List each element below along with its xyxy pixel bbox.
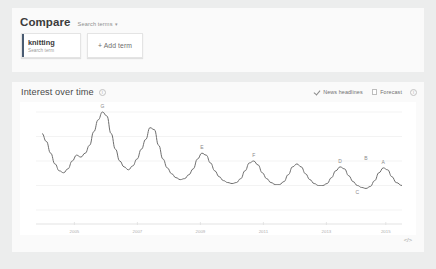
svg-text:2015: 2015 <box>381 229 391 234</box>
svg-text:2011: 2011 <box>259 229 269 234</box>
chart-controls: News headlines Forecast i <box>314 89 417 96</box>
compare-header: Compare Search terms▾ <box>12 8 424 28</box>
term-name: knitting <box>28 38 80 47</box>
term-kind: Search term <box>28 47 80 54</box>
svg-text:2007: 2007 <box>133 229 143 234</box>
embed-code-icon[interactable]: </> <box>404 236 412 243</box>
chart-area[interactable]: 200520072009201120132015GEFDCBA <box>20 102 416 235</box>
page-title: Compare <box>20 16 71 28</box>
term-card-content: knitting Search term <box>22 34 80 54</box>
embed-row: </> <box>12 235 424 243</box>
term-accent-bar <box>22 34 24 57</box>
svg-text:F: F <box>252 152 255 158</box>
compare-card: Compare Search terms▾ knitting Search te… <box>12 8 424 72</box>
search-terms-label: Search terms <box>78 21 113 27</box>
forecast-info-icon[interactable]: i <box>410 89 417 96</box>
interest-header: Interest over time i News headlines Fore… <box>12 82 424 102</box>
svg-text:D: D <box>338 158 342 164</box>
svg-text:A: A <box>382 159 386 165</box>
chevron-down-icon: ▾ <box>115 21 118 27</box>
interest-over-time-card: Interest over time i News headlines Fore… <box>12 82 424 252</box>
section-title: Interest over time <box>21 87 94 97</box>
svg-text:G: G <box>101 103 105 109</box>
svg-text:2009: 2009 <box>196 229 206 234</box>
svg-text:E: E <box>200 144 204 150</box>
svg-text:2013: 2013 <box>322 229 332 234</box>
forecast-label: Forecast <box>380 89 402 95</box>
add-term-button[interactable]: + Add term <box>87 33 143 58</box>
news-headlines-toggle[interactable]: News headlines <box>314 89 362 95</box>
checkbox-icon <box>372 89 378 95</box>
search-terms-dropdown[interactable]: Search terms▾ <box>78 21 118 27</box>
term-card-knitting[interactable]: knitting Search term <box>21 33 81 58</box>
term-row: knitting Search term + Add term <box>12 28 424 58</box>
svg-text:C: C <box>356 189 360 195</box>
svg-text:B: B <box>364 155 368 161</box>
trends-page: Compare Search terms▾ knitting Search te… <box>0 0 436 269</box>
interest-line-chart: 200520072009201120132015GEFDCBA <box>20 102 416 235</box>
info-icon[interactable]: i <box>99 89 106 96</box>
add-term-label: + Add term <box>98 42 132 49</box>
news-headlines-label: News headlines <box>323 89 362 95</box>
checkmark-icon <box>314 89 320 95</box>
svg-text:2005: 2005 <box>70 229 80 234</box>
forecast-toggle[interactable]: Forecast i <box>372 89 417 96</box>
